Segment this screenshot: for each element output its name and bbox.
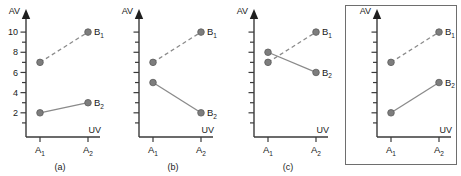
x-axis-category-label: A1 [35, 144, 45, 157]
panel-b-plot: AVUVA1A2B1B2(b) [113, 0, 225, 176]
data-point-marker [150, 79, 157, 86]
y-axis-tick-label: 8 [13, 47, 18, 57]
x-axis-category-label: A2 [83, 144, 93, 157]
x-axis-category-label: A1 [263, 144, 273, 157]
y-axis-tick-label: 4 [13, 88, 18, 98]
y-axis-tick-label: 2 [13, 108, 18, 118]
panel-b-caption: (b) [168, 162, 179, 172]
data-point-marker [436, 29, 443, 36]
panel-d: AVUVA1A2B1B2 [341, 0, 453, 176]
panel-a-plot: AVUV246810A1A2B1B2(a) [0, 0, 112, 176]
series-line-b1 [40, 32, 88, 62]
panel-d-plot: AVUVA1A2B1B2 [341, 0, 453, 176]
y-axis-arrow-icon [22, 9, 30, 19]
series-label-b2: B2 [322, 67, 332, 80]
panel-b: AVUVA1A2B1B2(b) [113, 0, 225, 176]
y-axis-tick-label: 6 [13, 68, 18, 78]
panel-a: AVUV246810A1A2B1B2(a) [0, 0, 112, 176]
series-line-b1 [153, 32, 201, 62]
data-point-marker [313, 69, 320, 76]
data-point-marker [265, 59, 272, 66]
data-point-marker [436, 79, 443, 86]
x-axis-category-label: A2 [434, 144, 444, 157]
y-axis-tick-label: 10 [8, 27, 18, 37]
y-axis-arrow-icon [250, 9, 258, 19]
x-axis-category-label: A1 [148, 144, 158, 157]
series-line-b1 [391, 32, 439, 62]
interaction-plots-figure: AVUV246810A1A2B1B2(a)AVUVA1A2B1B2(b)AVUV… [0, 0, 461, 176]
x-axis-category-label: A2 [311, 144, 321, 157]
series-line-b2 [40, 103, 88, 113]
panel-c: AVUVA1A2B1B2(c) [228, 0, 340, 176]
series-label-b2: B2 [207, 107, 217, 120]
panel-c-plot: AVUVA1A2B1B2(c) [228, 0, 340, 176]
panel-c-caption: (c) [283, 162, 294, 172]
series-line-b2 [153, 83, 201, 113]
y-axis-label: AV [122, 6, 133, 16]
x-axis-label: UV [439, 125, 452, 135]
x-axis-category-label: A1 [386, 144, 396, 157]
series-line-b1 [268, 32, 316, 62]
series-line-b2 [268, 52, 316, 72]
x-axis-label: UV [88, 125, 101, 135]
y-axis-label: AV [9, 6, 20, 16]
series-label-b1: B1 [322, 26, 332, 39]
data-point-marker [150, 59, 157, 66]
data-point-marker [85, 99, 92, 106]
x-axis-label: UV [316, 125, 329, 135]
data-point-marker [388, 59, 395, 66]
series-label-b1: B1 [207, 26, 217, 39]
data-point-marker [37, 59, 44, 66]
y-axis-arrow-icon [135, 9, 143, 19]
series-label-b1: B1 [94, 26, 104, 39]
data-point-marker [37, 110, 44, 117]
x-axis-label: UV [201, 125, 214, 135]
data-point-marker [85, 29, 92, 36]
data-point-marker [265, 49, 272, 56]
series-line-b2 [391, 83, 439, 113]
y-axis-arrow-icon [373, 9, 381, 19]
data-point-marker [198, 110, 205, 117]
series-label-b2: B2 [94, 97, 104, 110]
y-axis-label: AV [360, 6, 371, 16]
data-point-marker [388, 110, 395, 117]
y-axis-label: AV [237, 6, 248, 16]
data-point-marker [313, 29, 320, 36]
panel-a-caption: (a) [55, 162, 66, 172]
data-point-marker [198, 29, 205, 36]
x-axis-category-label: A2 [196, 144, 206, 157]
